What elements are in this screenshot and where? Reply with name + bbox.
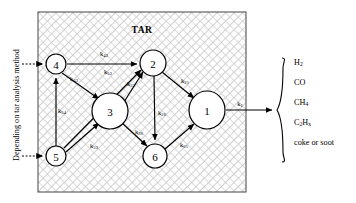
products-brace: [277, 58, 285, 162]
product-item-co: CO: [294, 78, 305, 87]
node-4: 4: [46, 54, 66, 74]
product-item-h2: H2: [294, 58, 303, 68]
left-axis-label-group: Depending on tar analysis method: [12, 49, 21, 161]
node-6-label: 6: [152, 151, 158, 163]
node-5: 5: [46, 146, 66, 166]
node-1-label: 1: [204, 105, 210, 117]
node-2: 2: [140, 50, 166, 76]
node-6: 6: [143, 144, 167, 168]
node-3: 3: [92, 93, 128, 129]
node-4-label: 4: [53, 59, 59, 71]
node-2-label: 2: [150, 58, 156, 70]
reaction-network-diagram: TAR Depending on tar analysis method: [0, 0, 356, 203]
product-item-coke: coke or soot: [294, 138, 335, 147]
node-1: 1: [189, 91, 225, 129]
node-3-label: 3: [107, 106, 113, 118]
left-axis-label: Depending on tar analysis method: [12, 49, 21, 161]
node-5-label: 5: [53, 151, 59, 163]
figure-root: TAR Depending on tar analysis method: [0, 0, 356, 203]
products-list: H2 CO CH4 C2Hx coke or soot: [294, 58, 335, 147]
tar-box-label: TAR: [131, 25, 152, 35]
product-item-c2hx: C2Hx: [294, 118, 311, 128]
product-item-ch4: CH4: [294, 98, 308, 108]
